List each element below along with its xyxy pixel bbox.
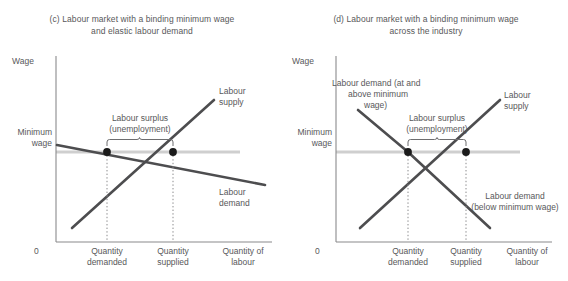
labour-supply-label-line1: Labour xyxy=(504,90,530,101)
labour-surplus-label: Labour surplus (unemployment) xyxy=(91,113,189,135)
minimum-wage-label: Minimum wage xyxy=(280,127,332,149)
labour-demand-below-label-line2: (below minimum wage) xyxy=(462,202,568,213)
labour-surplus-label-line1: Labour surplus xyxy=(388,113,486,124)
labour-demand-above-label-line2: above minimum xyxy=(332,89,447,100)
minimum-wage-label-line2: wage xyxy=(280,138,332,149)
labour-demand-below-label-line1: Labour demand xyxy=(462,191,568,202)
labour-supply-label-line1: Labour xyxy=(219,86,245,97)
x-axis-label: Quantity of labour xyxy=(492,246,562,268)
origin-label: 0 xyxy=(34,246,39,257)
x-tick-quantity-demanded-line1: Quantity xyxy=(72,246,142,257)
minimum-wage-label-line1: Minimum xyxy=(0,127,52,138)
y-axis-label: Wage xyxy=(292,56,314,67)
minimum-wage-label-line2: wage xyxy=(0,138,52,149)
quantity-supplied-point xyxy=(169,148,177,156)
panel-d: (d) Labour market with a binding minimum… xyxy=(284,0,568,281)
labour-surplus-label-line2: (unemployment) xyxy=(91,124,189,135)
labour-demand-above-label: Labour demand (at and above minimum wage… xyxy=(332,78,447,111)
labour-surplus-label: Labour surplus (unemployment) xyxy=(388,113,486,135)
labour-demand-above-label-line3: wage) xyxy=(332,100,447,111)
minimum-wage-figure: (c) Labour market with a binding minimum… xyxy=(0,0,568,281)
labour-supply-label-line2: supply xyxy=(504,101,530,112)
labour-demand-label: Labour demand xyxy=(219,187,250,209)
labour-demand-below-label: Labour demand (below minimum wage) xyxy=(462,191,568,213)
quantity-demanded-point xyxy=(404,148,412,156)
minimum-wage-label-line1: Minimum xyxy=(280,127,332,138)
x-axis-label: Quantity of labour xyxy=(208,246,278,268)
x-axis-label-line2: labour xyxy=(492,257,562,268)
labour-surplus-label-line1: Labour surplus xyxy=(91,113,189,124)
x-tick-quantity-supplied-line2: supplied xyxy=(432,257,500,268)
labour-demand-below-curve xyxy=(408,152,490,228)
labour-demand-above-label-line1: Labour demand (at and xyxy=(332,78,447,89)
origin-label: 0 xyxy=(315,246,320,257)
labour-demand-label-line1: Labour xyxy=(219,187,250,198)
labour-supply-label: Labour supply xyxy=(504,90,530,112)
quantity-supplied-point xyxy=(462,148,470,156)
labour-supply-label: Labour supply xyxy=(219,86,245,108)
panel-c: (c) Labour market with a binding minimum… xyxy=(0,0,284,281)
x-tick-quantity-demanded-line2: demanded xyxy=(72,257,142,268)
labour-supply-label-line2: supply xyxy=(219,97,245,108)
x-tick-quantity-supplied: Quantity supplied xyxy=(432,246,500,268)
x-tick-quantity-demanded: Quantity demanded xyxy=(72,246,142,268)
labour-demand-label-line2: demand xyxy=(219,198,250,209)
x-tick-quantity-supplied-line2: supplied xyxy=(139,257,207,268)
x-tick-quantity-supplied-line1: Quantity xyxy=(139,246,207,257)
labour-surplus-label-line2: (unemployment) xyxy=(388,124,486,135)
x-axis-label-line2: labour xyxy=(208,257,278,268)
x-axis-label-line1: Quantity of xyxy=(492,246,562,257)
y-axis-label: Wage xyxy=(12,56,34,67)
x-tick-quantity-supplied: Quantity supplied xyxy=(139,246,207,268)
x-tick-quantity-supplied-line1: Quantity xyxy=(432,246,500,257)
x-axis-label-line1: Quantity of xyxy=(208,246,278,257)
minimum-wage-label: Minimum wage xyxy=(0,127,52,149)
quantity-demanded-point xyxy=(103,148,111,156)
